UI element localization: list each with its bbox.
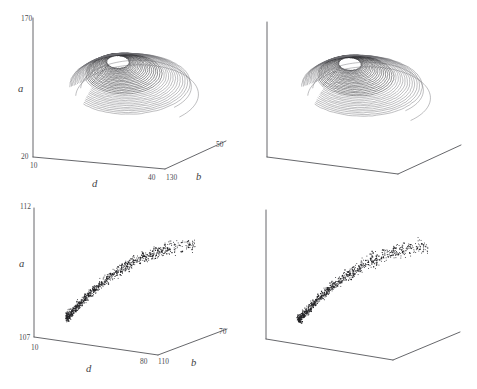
- b-axis-near-label: 130: [166, 173, 178, 182]
- scatter-point: [324, 289, 325, 290]
- scatter-point: [418, 240, 419, 241]
- scatter-point: [86, 300, 87, 301]
- scatter-point: [317, 303, 318, 304]
- scatter-point: [161, 251, 162, 252]
- scatter-point: [299, 317, 300, 318]
- scatter-point: [175, 248, 176, 249]
- scatter-point: [139, 258, 140, 259]
- scatter-point: [336, 283, 337, 284]
- scatter-point: [132, 256, 133, 257]
- scatter-point: [108, 282, 109, 283]
- scatter-point: [84, 296, 85, 297]
- scatter-point: [306, 310, 307, 311]
- scatter-point: [105, 284, 106, 285]
- scatter-point: [67, 315, 68, 316]
- scatter-point: [310, 308, 311, 309]
- scatter-point: [194, 243, 195, 244]
- scatter-point: [379, 259, 380, 260]
- scatter-point: [351, 275, 352, 276]
- scatter-point: [122, 272, 123, 273]
- scatter-point: [319, 301, 320, 302]
- scatter-point: [345, 278, 346, 279]
- scatter-point: [404, 254, 405, 255]
- scatter-point: [154, 254, 155, 255]
- scatter-point: [409, 248, 410, 249]
- scatter-cloud-bottom-right: [296, 237, 428, 324]
- scatter-point: [94, 291, 95, 292]
- scatter-point: [170, 250, 171, 251]
- scatter-point: [331, 281, 332, 282]
- scatter-point: [158, 253, 159, 254]
- scatter-point: [308, 307, 309, 308]
- scatter-point: [386, 260, 387, 261]
- scatter-point: [392, 252, 393, 253]
- panel-scatter-stereo-right: [238, 194, 477, 389]
- scatter-point: [105, 280, 106, 281]
- a-axis-name: a: [19, 258, 24, 269]
- scatter-point: [329, 288, 330, 289]
- scatter-point: [324, 299, 325, 300]
- scatter-point: [350, 271, 351, 272]
- scatter-point: [301, 318, 302, 319]
- scatter-point: [73, 311, 74, 312]
- scatter-point: [92, 286, 93, 287]
- scatter-point: [335, 277, 336, 278]
- scatter-point: [400, 258, 401, 259]
- scatter-point: [149, 253, 150, 254]
- scatter-point: [156, 255, 157, 256]
- scatter-point: [421, 253, 422, 254]
- scatter-point: [358, 268, 359, 269]
- scatter-point: [297, 319, 298, 320]
- scatter-point: [99, 289, 100, 290]
- scatter-point: [160, 252, 161, 253]
- scatter-point: [165, 243, 166, 244]
- scatter-point: [396, 253, 397, 254]
- scatter-point: [370, 260, 371, 261]
- scatter-point: [407, 246, 408, 247]
- scatter-point: [106, 277, 107, 278]
- scatter-point: [192, 241, 193, 242]
- scatter-point: [332, 284, 333, 285]
- scatter-point: [71, 311, 72, 312]
- scatter-point: [322, 298, 323, 299]
- scatter-point: [149, 256, 150, 257]
- scatter-point: [384, 255, 385, 256]
- scatter-point: [348, 280, 349, 281]
- scatter-point: [394, 251, 395, 252]
- scatter-point: [110, 276, 111, 277]
- scatter-point: [340, 278, 341, 279]
- scatter-point: [317, 294, 318, 295]
- scatter-point: [117, 274, 118, 275]
- scatter-point: [68, 313, 69, 314]
- scatter-point: [84, 297, 85, 298]
- scatter-point: [311, 302, 312, 303]
- scatter-point: [86, 296, 87, 297]
- scatter-point: [95, 292, 96, 293]
- scatter-point: [143, 253, 144, 254]
- scatter-point: [82, 305, 83, 306]
- scatter-point: [103, 283, 104, 284]
- scatter-point: [399, 248, 400, 249]
- scatter-point: [110, 275, 111, 276]
- scatter-point: [68, 314, 69, 315]
- scatter-point: [67, 316, 68, 317]
- scatter-point: [389, 250, 390, 251]
- scatter-point: [373, 261, 374, 262]
- scatter-point: [134, 257, 135, 258]
- scatter-point: [161, 254, 162, 255]
- scatter-point: [103, 278, 104, 279]
- scatter-point: [400, 247, 401, 248]
- scatter-point: [90, 294, 91, 295]
- scatter-point: [146, 260, 147, 261]
- scatter-point: [158, 251, 159, 252]
- scatter-point: [323, 295, 324, 296]
- scatter-point: [345, 277, 346, 278]
- scatter-point: [87, 293, 88, 294]
- scatter-point: [92, 293, 93, 294]
- scatter-point: [137, 260, 138, 261]
- scatter-point: [139, 260, 140, 261]
- a-axis-name: a: [18, 83, 23, 94]
- scatter-point: [343, 278, 344, 279]
- b-axis-far-label: 50: [216, 140, 224, 149]
- scatter-point: [132, 261, 133, 262]
